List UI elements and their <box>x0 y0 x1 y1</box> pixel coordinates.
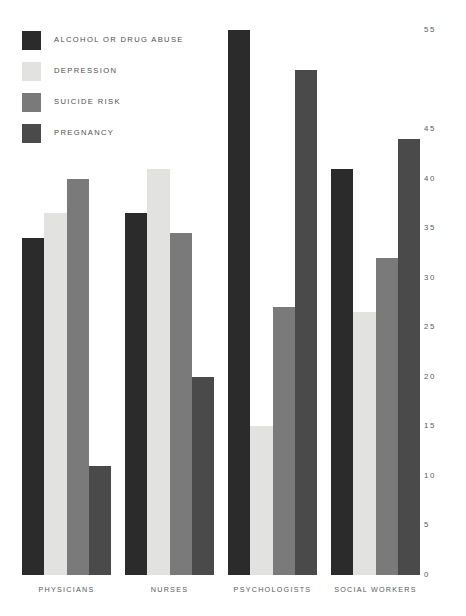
bar-group <box>331 30 420 575</box>
bar <box>331 169 353 575</box>
bar <box>250 426 272 575</box>
y-axis-tick-label: 40 <box>424 175 436 183</box>
y-axis: 05101520253035404555 <box>424 0 466 616</box>
bar <box>192 377 214 575</box>
y-axis-tick-label: 45 <box>424 125 436 133</box>
bar <box>376 258 398 575</box>
x-axis-category-label: SOCIAL WORKERS <box>331 586 420 593</box>
bar-group <box>125 30 214 575</box>
bar-group <box>22 30 111 575</box>
bar-chart: ALCOHOL OR DRUG ABUSE DEPRESSION SUICIDE… <box>0 0 466 616</box>
y-axis-tick-label: 25 <box>424 323 436 331</box>
y-axis-tick-label: 0 <box>424 571 430 579</box>
bar <box>295 70 317 575</box>
y-axis-tick-label: 55 <box>424 26 436 34</box>
plot-area <box>22 30 420 575</box>
y-axis-tick-label: 10 <box>424 472 436 480</box>
bar <box>353 312 375 575</box>
y-axis-tick-label: 15 <box>424 422 436 430</box>
bar <box>228 30 250 575</box>
bar <box>89 466 111 575</box>
bar-group <box>228 30 317 575</box>
y-axis-tick-label: 20 <box>424 373 436 381</box>
y-axis-tick-label: 35 <box>424 224 436 232</box>
y-axis-tick-label: 30 <box>424 274 436 282</box>
bar <box>170 233 192 575</box>
bar <box>22 238 44 575</box>
bar <box>125 213 147 575</box>
x-axis-category-label: PSYCHOLOGISTS <box>228 586 317 593</box>
x-axis-category-label: NURSES <box>125 586 214 593</box>
bar <box>44 213 66 575</box>
bar <box>273 307 295 575</box>
x-axis-category-label: PHYSICIANS <box>22 586 111 593</box>
bar <box>147 169 169 575</box>
bar <box>67 179 89 575</box>
x-axis: PHYSICIANSNURSESPSYCHOLOGISTSSOCIAL WORK… <box>22 586 420 602</box>
y-axis-tick-label: 5 <box>424 521 430 529</box>
bar <box>398 139 420 575</box>
